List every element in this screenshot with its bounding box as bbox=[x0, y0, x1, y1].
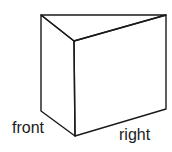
prism-diagram: front right bbox=[0, 0, 172, 152]
front-label: front bbox=[12, 119, 45, 136]
top-face bbox=[41, 15, 166, 41]
front-face bbox=[41, 15, 75, 136]
prism bbox=[41, 15, 166, 136]
right-face bbox=[74, 15, 166, 136]
right-label: right bbox=[119, 126, 151, 143]
